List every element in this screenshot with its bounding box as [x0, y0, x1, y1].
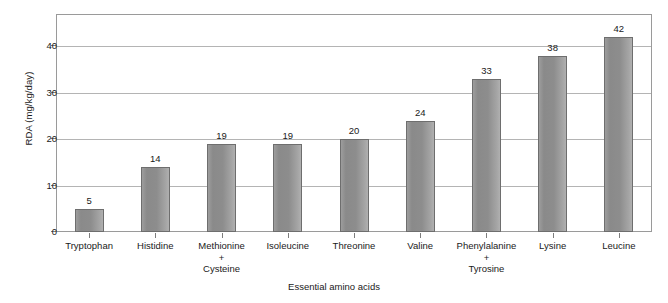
x-tick-mark: [553, 233, 554, 238]
x-tick-mark: [288, 233, 289, 238]
x-tick-mark: [354, 233, 355, 238]
bar: [75, 209, 104, 232]
bar-chart: RDA (mg/kg/day) 010203040 51419192024333…: [0, 0, 668, 303]
bar-value-label: 33: [466, 66, 506, 76]
bar-value-label: 14: [135, 154, 175, 164]
bar: [141, 167, 170, 232]
x-tick-mark: [155, 233, 156, 238]
x-tick-mark: [89, 233, 90, 238]
x-tick-label: Leucine: [574, 240, 664, 252]
y-tick-label: 0: [17, 227, 57, 237]
bar-value-label: 42: [599, 24, 639, 34]
bar-value-label: 24: [400, 108, 440, 118]
x-tick-mark: [486, 233, 487, 238]
bar: [538, 56, 567, 232]
x-tick-mark: [222, 233, 223, 238]
y-tick-label: 10: [17, 181, 57, 191]
bar-value-label: 19: [202, 131, 242, 141]
x-axis-title: Essential amino acids: [0, 281, 668, 292]
bar: [273, 144, 302, 232]
bar: [604, 37, 633, 232]
y-tick-label: 30: [17, 88, 57, 98]
x-tick-mark: [420, 233, 421, 238]
bar: [207, 144, 236, 232]
y-tick-label: 20: [17, 134, 57, 144]
bar-value-label: 20: [334, 126, 374, 136]
bar-value-label: 5: [69, 196, 109, 206]
bar: [406, 121, 435, 232]
y-axis-title: RDA (mg/kg/day): [23, 29, 34, 189]
bar: [340, 139, 369, 232]
x-tick-mark: [619, 233, 620, 238]
bar-value-label: 19: [268, 131, 308, 141]
y-tick-label: 40: [17, 41, 57, 51]
bar-value-label: 38: [533, 43, 573, 53]
bar: [472, 79, 501, 232]
